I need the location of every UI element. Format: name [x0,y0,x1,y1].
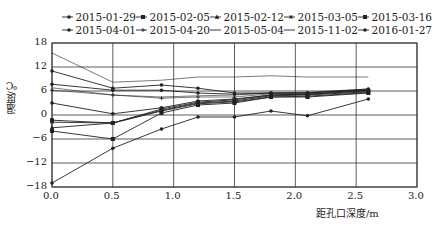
series-line [52,53,368,82]
x-axis-label: 距孔口深度/m [316,205,379,220]
legend-item: 2015-02-12 [210,11,284,23]
grid [52,43,417,187]
legend-swatch-icon [62,13,73,21]
x-tick-label: 0.5 [104,190,120,201]
y-tick-label: 12 [21,60,47,71]
data-point-marker [233,92,237,96]
data-point-marker [196,91,200,95]
data-point-marker [196,115,200,119]
legend-item: 2015-01-29 [62,11,136,23]
data-point-marker [160,106,164,110]
data-point-marker [111,121,115,125]
x-tick-label: 2.5 [347,190,363,201]
data-point-marker [141,28,145,32]
data-point-marker [196,86,200,90]
legend-item: 2015-04-01 [62,24,136,36]
x-tick-label: 1.5 [226,190,242,201]
legend-swatch-icon [284,26,295,34]
data-point-marker [111,88,115,92]
y-tick-label: 0 [21,108,47,119]
legend-label: 2015-03-16 [371,11,432,23]
data-point-marker [111,112,115,116]
series-line [52,84,368,94]
legend-item: 2016-01-27 [358,24,432,36]
data-point-marker [50,118,54,122]
series-2015-02-05 [50,91,370,141]
legend-label: 2015-04-01 [75,24,136,36]
data-point-marker [160,127,164,131]
legend-swatch-icon [136,26,147,34]
legend-label: 2015-01-29 [75,11,136,23]
legend-label: 2015-03-05 [297,11,358,23]
y-tick-label: −12 [21,156,47,167]
data-point-marker [306,91,310,95]
legend-row: 2015-04-012015-04-202015-05-042015-11-02… [62,23,432,36]
data-point-marker [363,28,367,32]
legend-item: 2015-04-20 [136,24,210,36]
legend-item: 2015-03-16 [358,11,432,23]
data-point-marker [67,28,71,32]
series-lines [50,53,371,185]
data-point-marker [67,15,71,19]
data-point-marker [160,88,164,92]
data-point-marker [160,83,164,87]
legend-label: 2015-05-04 [223,24,284,36]
legend-item: 2015-02-05 [136,11,210,23]
legend-swatch-icon [210,26,221,34]
x-tick-label: 2.0 [286,190,302,201]
data-point-marker [306,114,310,118]
legend-item: 2015-05-04 [210,24,284,36]
x-tick-label: 0.0 [43,190,59,201]
legend-swatch-icon [210,13,221,21]
data-point-marker [50,101,54,105]
legend-swatch-icon [62,26,73,34]
legend-row: 2015-01-292015-02-052015-02-122015-03-05… [62,10,432,23]
data-point-marker [111,146,115,150]
data-point-marker [141,15,145,19]
legend-label: 2015-04-20 [149,24,210,36]
legend: 2015-01-292015-02-052015-02-122015-03-05… [62,10,432,36]
legend-swatch-icon [358,13,369,21]
data-point-marker [367,88,371,92]
data-point-marker [111,137,115,141]
legend-label: 2016-01-27 [371,24,432,36]
data-point-marker [196,99,200,103]
data-point-marker [50,82,54,86]
data-point-marker [50,181,54,185]
data-point-marker [50,88,54,92]
y-tick-label: 6 [21,84,47,95]
legend-swatch-icon [136,13,147,21]
series-2015-11-02 [52,53,368,82]
x-tick-label: 3.0 [408,190,424,201]
data-point-marker [367,97,371,101]
series-line [52,71,368,93]
data-point-marker [233,115,237,119]
y-axis-label: 温度/℃ [4,80,19,114]
data-point-marker [289,15,293,19]
legend-label: 2015-02-05 [149,11,210,23]
data-point-marker [50,69,54,73]
series-2015-01-29 [50,97,370,185]
y-tick-label: −6 [21,132,47,143]
legend-label: 2015-02-12 [223,11,284,23]
legend-label: 2015-11-02 [297,24,358,36]
y-tick-label: 18 [21,36,47,47]
data-point-marker [269,91,273,95]
data-point-marker [363,15,367,19]
legend-item: 2015-11-02 [284,24,358,36]
x-tick-label: 1.0 [165,190,181,201]
legend-item: 2015-03-05 [284,11,358,23]
legend-swatch-icon [284,13,295,21]
data-point-marker [269,109,273,113]
legend-swatch-icon [358,26,369,34]
